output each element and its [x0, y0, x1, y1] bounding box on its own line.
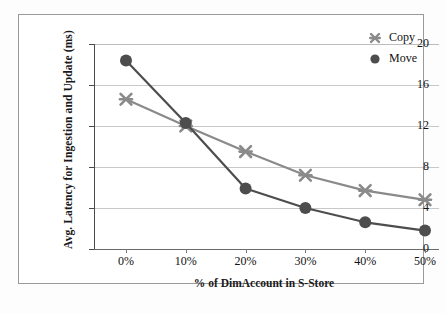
data-point-move — [299, 202, 311, 214]
x-axis-title: % of DimAccount in S-Store — [79, 277, 446, 289]
x-tick-label: 20% — [224, 254, 268, 269]
data-point-copy — [240, 146, 252, 157]
legend-label-copy: Copy — [389, 30, 415, 45]
x-tick-label: 50% — [403, 254, 446, 269]
data-point-copy — [419, 194, 431, 205]
data-point-move — [240, 183, 252, 195]
data-point-copy — [359, 185, 371, 196]
plot-area: 048121620 0%10%20%30%40%50% — [94, 44, 439, 249]
data-point-move — [359, 216, 371, 228]
x-tick-label: 40% — [343, 254, 387, 269]
x-tick-label: 0% — [104, 254, 148, 269]
copy-marker-icon — [365, 31, 387, 45]
legend-item-move: Move — [365, 48, 417, 69]
data-point-move — [419, 225, 431, 237]
x-tick-mark — [246, 249, 247, 253]
data-point-copy — [299, 170, 311, 181]
x-tick-label: 30% — [283, 254, 327, 269]
y-tick-mark — [89, 249, 94, 250]
x-tick-mark — [126, 249, 127, 253]
legend-item-copy: Copy — [365, 27, 417, 48]
x-tick-mark — [305, 249, 306, 253]
legend: Copy Move — [365, 27, 417, 69]
series-plot — [94, 44, 439, 249]
x-tick-mark — [186, 249, 187, 253]
data-point-copy — [120, 94, 132, 105]
move-marker-icon — [365, 52, 387, 66]
series-line-copy — [126, 99, 425, 200]
y-axis-title: Avg. Latency for Ingestion and Update (m… — [62, 25, 75, 255]
series-line-move — [126, 60, 425, 230]
x-tick-label: 10% — [164, 254, 208, 269]
legend-label-move: Move — [389, 51, 417, 66]
chart-figure: Avg. Latency for Ingestion and Update (m… — [0, 0, 446, 313]
data-point-move — [180, 117, 192, 129]
data-point-move — [120, 54, 132, 66]
x-tick-mark — [365, 249, 366, 253]
figure-border: Avg. Latency for Ingestion and Update (m… — [18, 14, 424, 284]
x-axis-line — [94, 249, 439, 250]
x-tick-mark — [425, 249, 426, 253]
